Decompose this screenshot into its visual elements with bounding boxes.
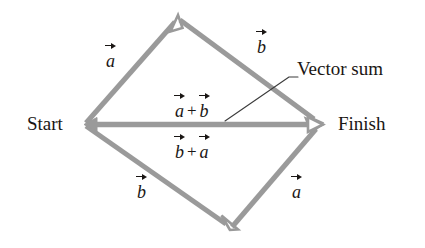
arm-line-a-upper — [86, 22, 175, 123]
sum-above-term-1: a — [175, 95, 184, 120]
start-label: Start — [27, 114, 63, 133]
sum-expression-below: b + a — [175, 136, 209, 161]
sum-below-term-2: a — [200, 136, 209, 161]
sum-above-term-2: b — [200, 95, 209, 120]
vector-label-b-bottom-left: b — [137, 176, 146, 201]
vector-label-a-top-left: a — [106, 45, 115, 70]
vector-arm-bottom-to-finish — [232, 117, 322, 227]
vector-sum-callout-label: Vector sum — [297, 59, 383, 78]
vector-arm-start-to-bottom — [86, 126, 238, 230]
sum-below-term-1: b — [175, 136, 184, 161]
vector-sum-figure: Start Finish Vector sum a b b a a + b b … — [0, 0, 425, 248]
arm-line-a-lower — [232, 129, 316, 227]
vector-label-a-bottom-right: a — [292, 176, 301, 201]
sum-above-operator: + — [184, 102, 200, 119]
sum-expression-above: a + b — [175, 95, 209, 120]
vector-label-b-top-right: b — [257, 31, 266, 56]
finish-label: Finish — [338, 114, 386, 133]
sum-below-operator: + — [184, 143, 200, 160]
vector-arm-start-to-top — [86, 15, 183, 123]
